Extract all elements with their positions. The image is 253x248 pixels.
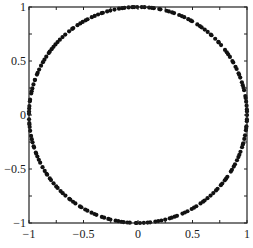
x-tick-label: −0.5 <box>73 227 95 241</box>
data-point <box>47 51 51 55</box>
data-point <box>35 72 39 76</box>
y-axis-tick-labels: −1−0.500.51 <box>4 0 26 230</box>
data-point <box>39 64 43 68</box>
data-point <box>225 175 229 179</box>
data-point <box>223 48 227 52</box>
x-axis-tick-labels: −1−0.500.51 <box>23 227 250 241</box>
data-point <box>240 80 244 84</box>
data-point <box>233 65 237 69</box>
data-point <box>185 209 189 213</box>
data-point <box>175 214 179 218</box>
data-point <box>194 204 198 208</box>
scatter-chart: −1−0.500.51 −1−0.500.51 <box>0 0 253 248</box>
data-point <box>105 9 109 13</box>
data-point <box>215 187 219 191</box>
data-point <box>233 162 237 166</box>
y-tick-label: 0.5 <box>11 54 26 68</box>
data-point <box>31 82 35 86</box>
x-tick-label: 1 <box>244 227 250 241</box>
data-point <box>213 37 217 41</box>
data-point <box>230 59 234 63</box>
x-tick-label: 0 <box>135 227 141 241</box>
y-tick-label: 1 <box>20 0 26 14</box>
y-tick-label: −0.5 <box>4 162 26 176</box>
data-point <box>45 173 49 177</box>
data-point <box>63 193 67 197</box>
data-point <box>186 17 190 21</box>
x-tick-label: 0.5 <box>185 227 200 241</box>
data-point <box>40 165 44 169</box>
data-points <box>27 5 249 225</box>
data-point <box>85 209 89 213</box>
data-point <box>159 218 163 222</box>
data-point <box>38 161 42 165</box>
data-point <box>238 150 242 154</box>
data-point <box>148 220 152 224</box>
data-point <box>33 78 37 82</box>
data-point <box>244 100 248 104</box>
data-point <box>32 145 36 149</box>
data-point <box>195 22 199 26</box>
data-point <box>244 124 248 128</box>
data-point <box>236 71 240 75</box>
data-point <box>75 23 79 27</box>
data-point <box>28 125 32 129</box>
data-point <box>112 7 116 11</box>
data-point <box>90 15 94 19</box>
data-point <box>216 40 220 44</box>
data-point <box>29 91 33 95</box>
data-point <box>73 201 77 205</box>
data-point <box>94 213 98 217</box>
data-point <box>242 137 246 141</box>
data-point <box>55 186 59 190</box>
y-tick-label: 0 <box>20 108 26 122</box>
y-tick-label: −1 <box>13 216 26 230</box>
data-point <box>102 216 106 220</box>
data-point <box>67 29 71 33</box>
data-point <box>79 205 83 209</box>
data-point <box>177 13 181 17</box>
